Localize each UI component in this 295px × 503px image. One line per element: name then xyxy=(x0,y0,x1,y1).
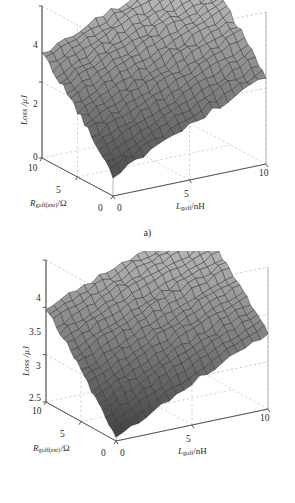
z-axis-unit-b: μJ xyxy=(21,346,31,355)
y-tick-5-b: 5 xyxy=(186,434,191,444)
y-tick-0-b: 0 xyxy=(120,448,125,458)
x-tick-10-b: 10 xyxy=(32,406,42,416)
z-axis-title-text-a: Loss / xyxy=(19,104,29,125)
z-tick-3-b: 3 xyxy=(36,361,41,371)
y-axis-unit-a: /nH xyxy=(191,201,205,211)
surface-mesh xyxy=(42,0,266,178)
x-tick-0-a: 0 xyxy=(98,203,103,213)
z-tick-35-b: 3.5 xyxy=(29,327,41,337)
y-tick-10-a: 10 xyxy=(259,168,269,178)
y-tick-0-a: 0 xyxy=(117,203,122,213)
x-tick-0-b: 0 xyxy=(101,448,106,458)
plot-canvas-a xyxy=(0,0,295,252)
x-axis-sub-b: goff(ext) xyxy=(39,446,61,453)
caption-a: a) xyxy=(0,228,295,238)
plot-area-b xyxy=(0,251,295,503)
y-axis-sub-b: goff xyxy=(183,449,193,456)
y-tick-5-a: 5 xyxy=(184,189,189,199)
z-axis-title-text-b: Loss / xyxy=(21,355,31,376)
z-axis-title-b: Loss /μJ xyxy=(21,331,31,391)
x-axis-unit-b: /Ω xyxy=(60,443,69,453)
plot-area-a xyxy=(0,0,295,252)
surface-plot-panel-a: Loss /μJ 4 2 0 10 5 0 Rgoff(ext)/Ω 0 5 1… xyxy=(0,0,295,252)
x-tick-5-a: 5 xyxy=(56,185,61,195)
y-axis-unit-b: /nH xyxy=(193,446,207,456)
z-axis-unit-a: μJ xyxy=(19,95,29,104)
x-axis-title-a: Rgoff(ext)/Ω xyxy=(30,198,67,208)
z-axis-title-a: Loss /μJ xyxy=(19,80,29,140)
y-axis-sub-a: goff xyxy=(181,204,191,211)
z-tick-25-b: 2.5 xyxy=(29,393,41,403)
x-axis-title-b: Rgoff(ext)/Ω xyxy=(33,443,70,453)
x-tick-5-b: 5 xyxy=(60,429,65,439)
x-axis-sub-a: goff(ext) xyxy=(36,201,58,208)
z-tick-4-a: 4 xyxy=(33,40,38,50)
y-axis-title-b: Lgoff/nH xyxy=(178,446,207,456)
y-axis-title-a: Lgoff/nH xyxy=(176,201,205,211)
x-tick-10-a: 10 xyxy=(28,163,38,173)
surface-plot-panel-b: Loss /μJ 4 3.5 3 2.5 10 5 0 Rgoff(ext)/Ω… xyxy=(0,251,295,503)
y-tick-10-b: 10 xyxy=(260,413,270,423)
surface-mesh xyxy=(46,251,268,437)
z-tick-0-a: 0 xyxy=(33,152,38,162)
plot-canvas-b xyxy=(0,251,295,503)
x-axis-unit-a: /Ω xyxy=(57,198,66,208)
z-tick-2-a: 2 xyxy=(33,99,38,109)
z-tick-4-b: 4 xyxy=(36,293,41,303)
